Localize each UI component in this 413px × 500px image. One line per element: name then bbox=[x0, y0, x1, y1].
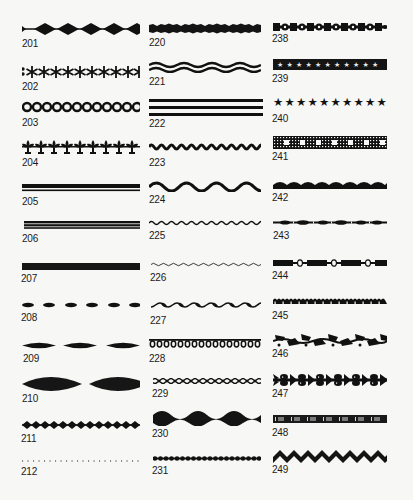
triple-line-pattern bbox=[149, 99, 263, 117]
item-number: 247 bbox=[272, 388, 288, 399]
medium-lens-dashes-pattern bbox=[22, 341, 140, 350]
svg-text:★: ★ bbox=[372, 61, 378, 69]
leaf-vine-pattern bbox=[273, 333, 387, 347]
item-number: 202 bbox=[22, 81, 38, 92]
heavy-wave-band-pattern bbox=[153, 410, 261, 426]
item-number: 212 bbox=[21, 466, 37, 477]
dotted-line-pattern bbox=[22, 459, 140, 463]
thin-wave-pattern bbox=[149, 220, 261, 226]
item-number: 241 bbox=[272, 151, 288, 162]
lattice-band-pattern bbox=[273, 136, 387, 149]
rough-bar-pattern bbox=[149, 23, 261, 34]
svg-text:★: ★ bbox=[287, 61, 293, 69]
item-number: 206 bbox=[22, 233, 38, 244]
item-number: 204 bbox=[22, 157, 38, 168]
item-number: 208 bbox=[21, 312, 37, 323]
svg-text:★: ★ bbox=[296, 61, 302, 69]
double-line-pattern bbox=[22, 221, 140, 230]
svg-text:★: ★ bbox=[315, 61, 321, 69]
svg-text:★: ★ bbox=[277, 61, 283, 69]
braid-pattern bbox=[153, 378, 261, 384]
item-number: 249 bbox=[272, 464, 288, 475]
diamond-chain-pattern bbox=[22, 22, 140, 36]
item-number: 239 bbox=[272, 73, 288, 84]
star-band-pattern: ★★★ ★★★ ★★★ ★★ bbox=[273, 59, 387, 70]
svg-text:★: ★ bbox=[334, 61, 340, 69]
item-number: 220 bbox=[149, 37, 165, 48]
zigzag-band-pattern bbox=[273, 448, 387, 464]
item-number: 229 bbox=[152, 388, 168, 399]
solid-bar-pattern bbox=[22, 263, 140, 271]
tight-wave-pattern bbox=[149, 143, 261, 151]
scallop-band-pattern bbox=[273, 180, 387, 189]
scallop-dots-pattern bbox=[153, 455, 261, 462]
large-lens-dashes-pattern bbox=[22, 376, 140, 392]
item-number: 224 bbox=[149, 194, 165, 205]
svg-text:★: ★ bbox=[344, 61, 350, 69]
item-number: 210 bbox=[22, 393, 38, 404]
item-number: 221 bbox=[149, 76, 165, 87]
svg-text:★: ★ bbox=[363, 61, 369, 69]
item-number: 231 bbox=[152, 465, 168, 476]
svg-text:★: ★ bbox=[331, 96, 341, 108]
bracket-band-pattern bbox=[273, 415, 387, 423]
item-number: 209 bbox=[23, 353, 39, 364]
item-number: 243 bbox=[273, 230, 289, 241]
hairline-wave-pattern bbox=[151, 262, 261, 267]
item-number: 201 bbox=[22, 38, 38, 49]
asterisk-row-pattern bbox=[22, 65, 140, 79]
svg-text:★: ★ bbox=[353, 61, 359, 69]
fleur-de-lis-row-pattern bbox=[22, 140, 140, 154]
item-number: 244 bbox=[272, 270, 288, 281]
svg-text:★: ★ bbox=[296, 96, 306, 108]
item-number: 223 bbox=[149, 157, 165, 168]
star-row-pattern: ★★★ ★★★ ★★★ ★ bbox=[273, 96, 387, 108]
item-number: 205 bbox=[22, 196, 38, 207]
thick-thin-double-line-pattern bbox=[22, 184, 140, 192]
item-number: 230 bbox=[152, 428, 168, 439]
svg-text:★: ★ bbox=[273, 96, 283, 108]
crenellated-band-pattern bbox=[273, 297, 387, 304]
square-circle-chain-pattern bbox=[273, 23, 387, 31]
bar-link-chain-pattern bbox=[273, 259, 387, 267]
item-number: 227 bbox=[150, 315, 166, 326]
svg-text:★: ★ bbox=[377, 96, 387, 108]
laurel-band-pattern bbox=[273, 373, 387, 387]
item-number: 245 bbox=[272, 310, 288, 321]
item-number: 207 bbox=[21, 273, 37, 284]
item-number: 203 bbox=[22, 117, 38, 128]
svg-text:★: ★ bbox=[354, 96, 364, 108]
item-number: 246 bbox=[272, 348, 288, 359]
svg-text:★: ★ bbox=[306, 61, 312, 69]
small-diamond-chain-pattern bbox=[22, 420, 140, 430]
small-lens-dashes-pattern bbox=[22, 302, 140, 308]
item-number: 211 bbox=[21, 433, 36, 444]
double-wave-pattern bbox=[149, 61, 261, 73]
item-number: 238 bbox=[272, 33, 288, 44]
item-number: 228 bbox=[149, 353, 165, 364]
svg-text:★: ★ bbox=[285, 96, 295, 108]
item-number: 226 bbox=[150, 272, 166, 283]
twisted-rope-pattern bbox=[151, 301, 261, 309]
item-number: 242 bbox=[272, 192, 288, 203]
ring-chain-pattern bbox=[22, 100, 140, 114]
broad-wave-pattern bbox=[149, 178, 261, 192]
svg-text:★: ★ bbox=[325, 61, 331, 69]
loop-chain-pattern bbox=[149, 339, 261, 348]
item-number: 222 bbox=[149, 118, 165, 129]
svg-text:★: ★ bbox=[308, 96, 318, 108]
svg-text:★: ★ bbox=[319, 96, 329, 108]
beaded-line-pattern bbox=[273, 220, 387, 225]
item-number: 240 bbox=[272, 113, 288, 124]
svg-text:★: ★ bbox=[365, 96, 375, 108]
svg-text:★: ★ bbox=[342, 96, 352, 108]
item-number: 225 bbox=[149, 230, 165, 241]
item-number: 248 bbox=[272, 427, 288, 438]
